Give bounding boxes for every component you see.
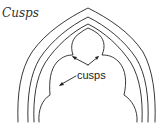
gothic-arch-drawing [0, 0, 162, 134]
arrowhead-upper-left [72, 56, 77, 60]
arrowhead-lower [59, 82, 64, 86]
cusps-label: cusps [77, 69, 106, 81]
